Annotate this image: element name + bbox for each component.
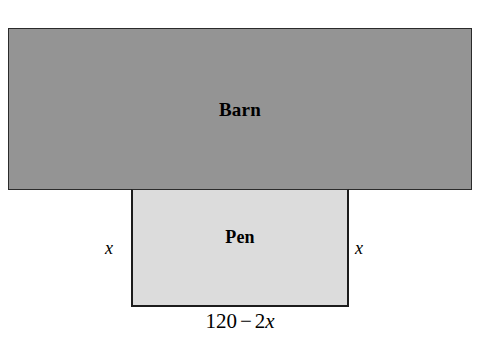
- dimension-label-right-x: x: [355, 239, 363, 257]
- dimension-coefficient: 2: [255, 309, 266, 333]
- dimension-label-left-x: x: [105, 239, 113, 257]
- dimension-constant: 120: [205, 309, 237, 333]
- barn-label: Barn: [9, 29, 471, 189]
- pen-rectangle: Pen: [131, 189, 349, 307]
- dimension-variable: x: [265, 309, 274, 333]
- dimension-label-bottom: 120−2x: [131, 311, 349, 332]
- barn-rectangle: Barn: [8, 28, 472, 190]
- pen-label: Pen: [133, 190, 347, 305]
- figure-canvas: Barn Pen x x 120−2x: [0, 0, 481, 343]
- dimension-operator: −: [237, 309, 255, 333]
